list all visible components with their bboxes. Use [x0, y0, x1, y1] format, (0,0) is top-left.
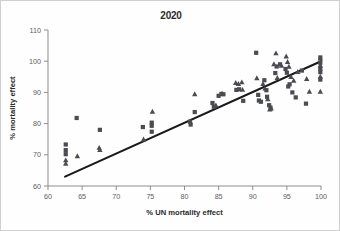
data-point-triangle [150, 109, 155, 114]
data-point-triangle [239, 79, 244, 84]
y-tick-label: 110 [30, 26, 41, 35]
data-point-triangle [286, 64, 291, 69]
y-tick-label: 90 [33, 88, 41, 97]
scatter-plot: 607080901001106065707580859095100% UN mo… [1, 1, 340, 231]
data-point-square [241, 99, 245, 103]
data-point-triangle [318, 89, 323, 94]
data-point-triangle [275, 75, 280, 80]
data-point-square [300, 68, 304, 72]
data-point-triangle [318, 74, 323, 79]
y-axis-title: % mortality effect [8, 76, 17, 140]
data-point-square [273, 71, 277, 75]
data-point-triangle [75, 153, 80, 158]
data-point-triangle [307, 89, 312, 94]
data-point-square [64, 142, 68, 146]
data-point-square [189, 122, 193, 126]
data-point-square [150, 124, 154, 128]
y-tick-label: 100 [29, 57, 41, 66]
data-point-square [288, 82, 292, 86]
x-tick-label: 70 [112, 192, 120, 201]
data-point-square [150, 130, 154, 134]
x-tick-label: 80 [181, 192, 189, 201]
data-point-square [210, 101, 214, 105]
data-point-triangle [271, 61, 276, 66]
x-tick-label: 75 [146, 192, 154, 201]
y-tick-label: 80 [33, 119, 41, 128]
x-tick-label: 90 [249, 192, 257, 201]
data-point-square [294, 95, 298, 99]
data-point-square [141, 125, 145, 129]
x-tick-label: 60 [44, 192, 52, 201]
data-point-square [259, 100, 263, 104]
data-point-square [304, 102, 308, 106]
data-point-square [254, 51, 258, 55]
x-axis-title: % UN mortality effect [146, 208, 223, 217]
data-point-triangle [283, 54, 288, 59]
data-point-triangle [192, 91, 197, 96]
chart-figure: 2020 607080901001106065707580859095100% … [0, 0, 340, 231]
data-point-square [64, 152, 68, 156]
data-point-triangle [285, 59, 290, 64]
data-point-triangle [141, 137, 146, 142]
data-point-square [193, 110, 197, 114]
data-point-square [290, 90, 294, 94]
trend-line [65, 61, 321, 176]
regression-line [65, 61, 321, 176]
data-point-triangle [254, 75, 259, 80]
data-point-triangle [304, 76, 309, 81]
y-tick-label: 70 [33, 150, 41, 159]
y-tick-label: 60 [33, 182, 41, 191]
x-tick-label: 85 [215, 192, 223, 201]
x-tick-label: 65 [78, 192, 86, 201]
data-point-square [285, 71, 289, 75]
data-markers [63, 50, 323, 165]
axis-labels: 607080901001106065707580859095100% UN mo… [8, 26, 327, 217]
data-point-square [75, 116, 79, 120]
axes [44, 30, 321, 190]
x-tick-label: 100 [315, 192, 327, 201]
data-point-square [318, 70, 322, 74]
data-point-square [256, 93, 260, 97]
data-point-triangle [273, 50, 278, 55]
data-point-square [98, 128, 102, 132]
data-point-square [64, 148, 68, 152]
x-tick-label: 95 [283, 192, 291, 201]
